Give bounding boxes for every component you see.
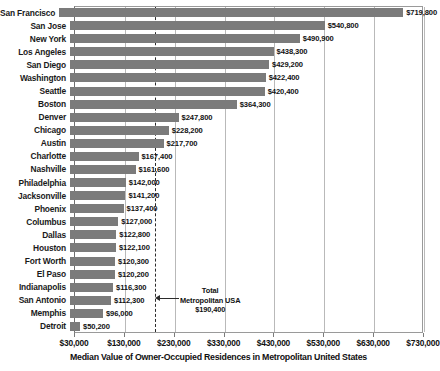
bar-value-label: $438,300 — [277, 47, 308, 56]
bar — [70, 152, 139, 161]
bar-value-label: $490,900 — [303, 34, 334, 43]
bar-row: Houston$122,100 — [0, 241, 437, 254]
bar-row: Austin$217,700 — [0, 137, 437, 150]
bar-container: $422,400 — [70, 71, 437, 84]
bar-row: San Jose$540,800 — [0, 19, 437, 32]
bar-container: $364,300 — [70, 98, 437, 111]
total-metropolitan-usa-annotation: TotalMetropolitan USA$190,400 — [180, 286, 240, 315]
x-axis-tick-label: $330,000 — [207, 338, 240, 348]
bar-container: $142,000 — [70, 176, 437, 189]
bar-value-label: $120,200 — [118, 270, 149, 279]
category-label: Jacksonville — [0, 191, 70, 201]
x-axis-tick-label: $730,000 — [406, 338, 439, 348]
bar-row: Chicago$228,200 — [0, 124, 437, 137]
bar — [70, 139, 164, 148]
bar — [70, 87, 265, 96]
bar — [70, 165, 136, 174]
bar-container: $137,400 — [70, 202, 437, 215]
bar-value-label: $142,000 — [129, 178, 160, 187]
bar-row: Philadelphia$142,000 — [0, 176, 437, 189]
bar-container: $247,800 — [70, 111, 437, 124]
bar-value-label: $141,200 — [128, 191, 159, 200]
bar — [70, 100, 237, 109]
x-axis-tick — [74, 333, 75, 337]
x-axis-tick — [373, 333, 374, 337]
category-label: Denver — [0, 112, 70, 122]
bar-container: $141,200 — [70, 189, 437, 202]
category-label: Fort Worth — [0, 256, 70, 266]
bar-row: San Diego$429,200 — [0, 58, 437, 71]
category-label: San Antonio — [0, 295, 70, 305]
bar — [70, 322, 80, 331]
bar-value-label: $116,300 — [116, 283, 146, 292]
annotation-line-region: Metropolitan USA — [180, 296, 240, 306]
x-axis-tick-labels: $30,000$130,000$230,000$330,000$430,000$… — [0, 338, 437, 351]
bar — [70, 257, 115, 266]
bar — [70, 243, 116, 252]
bar-row: Dallas$122,800 — [0, 228, 437, 241]
bar-row: San Francisco$719,800 — [0, 6, 437, 19]
bar — [70, 204, 124, 213]
category-label: Washington — [0, 73, 70, 83]
bar — [70, 230, 116, 239]
x-axis-tick — [174, 333, 175, 337]
bar-value-label: $364,300 — [240, 100, 271, 109]
bar — [70, 47, 274, 56]
bar-container: $112,300 — [70, 294, 437, 307]
bar-row: Columbus$127,000 — [0, 215, 437, 228]
bar-value-label: $112,300 — [114, 296, 144, 305]
bar-value-label: $122,800 — [119, 230, 150, 239]
bar-row: Charlotte$167,400 — [0, 150, 437, 163]
bar — [70, 191, 125, 200]
x-axis-tick-label: $130,000 — [107, 338, 140, 348]
x-axis-title: Median Value of Owner-Occupied Residence… — [0, 352, 437, 362]
category-label: San Jose — [0, 21, 70, 31]
bar-container: $540,800 — [70, 19, 437, 32]
bar-container: $217,700 — [70, 137, 437, 150]
bar — [70, 178, 126, 187]
bar — [59, 8, 403, 17]
bar — [70, 296, 111, 305]
bar-container: $228,200 — [70, 124, 437, 137]
x-axis-tick — [323, 333, 324, 337]
x-axis-tick — [273, 333, 274, 337]
bar — [70, 21, 325, 30]
x-axis-tick-label: $230,000 — [157, 338, 190, 348]
bar-value-label: $122,100 — [119, 243, 150, 252]
bar-container: $429,200 — [70, 58, 437, 71]
bar — [70, 309, 103, 318]
bar-value-label: $420,400 — [268, 87, 299, 96]
x-axis-tick — [224, 333, 225, 337]
category-label: Detroit — [0, 321, 70, 331]
x-axis-tick — [423, 333, 424, 337]
annotation-line-value: $190,400 — [180, 305, 240, 315]
category-label: Memphis — [0, 308, 70, 318]
bar — [70, 73, 266, 82]
category-label: Indianapolis — [0, 282, 70, 292]
annotation-line-total: Total — [180, 286, 240, 296]
category-label: Columbus — [0, 217, 70, 227]
bar-value-label: $429,200 — [272, 60, 303, 69]
category-label: New York — [0, 34, 70, 44]
category-label: Chicago — [0, 125, 70, 135]
x-axis-tick-label: $530,000 — [307, 338, 340, 348]
bar-value-label: $96,000 — [106, 309, 133, 318]
bar-value-label: $422,400 — [269, 73, 300, 82]
bar-container: $438,300 — [70, 45, 437, 58]
category-label: El Paso — [0, 269, 70, 279]
category-label: Nashville — [0, 164, 70, 174]
bar-container: $127,000 — [70, 215, 437, 228]
bar-value-label: $137,400 — [127, 204, 158, 213]
x-axis-tick-label: $630,000 — [356, 338, 389, 348]
bar-row: Denver$247,800 — [0, 111, 437, 124]
bar-container: $167,400 — [70, 150, 437, 163]
category-label: Los Angeles — [0, 47, 70, 57]
category-label: Phoenix — [0, 204, 70, 214]
bar-container: $120,200 — [70, 268, 437, 281]
bar-container: $490,900 — [70, 32, 437, 45]
bar-container: $420,400 — [70, 84, 437, 97]
bar-value-label: $247,800 — [182, 113, 213, 122]
bar-row: New York$490,900 — [0, 32, 437, 45]
bar-value-label: $540,800 — [328, 21, 359, 30]
